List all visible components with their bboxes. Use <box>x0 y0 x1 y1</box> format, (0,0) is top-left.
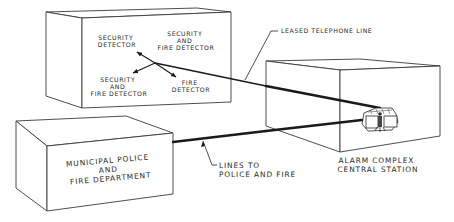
central-station-box <box>266 59 440 152</box>
police-fire-leader <box>203 141 217 165</box>
central-station-label: ALARM COMPLEX CENTRAL STATION <box>338 156 419 174</box>
telephone-line-label: LEASED TELEPHONE LINE <box>281 27 372 34</box>
detector-label-security: SECURITY DETECTOR <box>98 34 137 48</box>
alarm-console-icon <box>362 108 398 132</box>
alarm-system-diagram: SECURITY DETECTOR SECURITY AND FIRE DETE… <box>0 0 454 222</box>
police-fire-lines-label: LINES TO POLICE AND FIRE <box>219 161 296 179</box>
